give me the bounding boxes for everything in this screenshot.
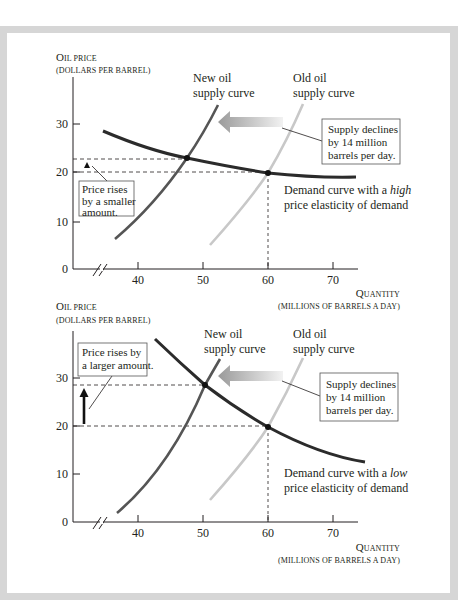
svg-text:50: 50 [197,273,209,287]
bottom-price-rise-arrow-icon [80,388,89,424]
svg-text:70: 70 [327,273,339,287]
svg-text:0: 0 [62,515,68,529]
top-x-axis-subtitle: (MILLIONS OF BARRELS A DAY) [278,302,400,311]
top-price-rise-callout: Price risesby a smalleramount. [79,162,136,218]
bottom-supply-shift-arrow-icon [218,365,283,387]
top-old-equilibrium-point [265,170,271,176]
bottom-x-axis-subtitle: (MILLIONS OF BARRELS A DAY) [278,556,400,565]
bottom-y-axis-title: OIL PRICE [56,300,97,312]
svg-text:20: 20 [56,165,68,179]
svg-text:60: 60 [262,273,274,287]
top-y-axis-title: OIL PRICE [56,51,97,63]
svg-text:50: 50 [197,526,209,540]
bottom-new-equilibrium-point [202,382,208,388]
top-chart: OIL PRICE (DOLLARS PER BARREL) 0 10 20 3… [56,51,411,311]
bottom-y-ticks: 0 10 20 30 [56,371,80,529]
svg-text:20: 20 [56,419,68,433]
top-demand-curve [103,131,356,177]
top-supply-shift-arrow-icon [218,111,283,133]
svg-text:60: 60 [262,526,274,540]
bottom-new-supply-label: New oilsupply curve [204,327,266,356]
top-price-rise-arrow-icon [84,162,90,168]
oil-supply-shock-figure: OIL PRICE (DOLLARS PER BARREL) 0 10 20 3… [0,0,475,609]
top-x-ticks: 40 50 60 70 [132,262,339,287]
bottom-axis-break-icon [93,517,107,529]
svg-text:40: 40 [132,273,144,287]
bottom-price-rise-callout: Price rises bya larger amount. [78,343,154,424]
svg-text:10: 10 [56,215,68,229]
svg-text:30: 30 [56,117,68,131]
top-old-supply-label: Old oilsupply curve [293,71,355,100]
top-axis-break-icon [93,264,107,276]
top-new-supply-label: New oilsupply curve [193,71,255,100]
svg-text:30: 30 [56,371,68,385]
bottom-demand-label: Demand curve with a lowprice elasticity … [284,466,408,495]
svg-text:0: 0 [62,262,68,276]
bottom-chart: OIL PRICE (DOLLARS PER BARREL) 0 10 20 3… [56,300,408,565]
bottom-y-axis-subtitle: (DOLLARS PER BARREL) [56,316,151,325]
top-new-equilibrium-point [184,155,190,161]
top-y-ticks: 0 10 20 30 [56,117,80,276]
bottom-supply-decline-callout: Supply declinesby 14 millionbarrels per … [282,373,398,421]
svg-text:10: 10 [56,467,68,481]
bottom-old-equilibrium-point [265,424,271,430]
svg-text:40: 40 [132,526,144,540]
top-y-axis-subtitle: (DOLLARS PER BARREL) [56,66,151,75]
top-demand-label: Demand curve with a highprice elasticity… [284,183,411,212]
bottom-x-axis-title: QUANTITY [356,541,400,553]
top-x-axis-title: QUANTITY [356,287,400,299]
bottom-x-ticks: 40 50 60 70 [132,515,339,540]
bottom-old-supply-label: Old oilsupply curve [293,327,355,356]
svg-text:70: 70 [327,526,339,540]
top-supply-decline-callout: Supply declinesby 14 millionbarrels per … [282,119,400,164]
